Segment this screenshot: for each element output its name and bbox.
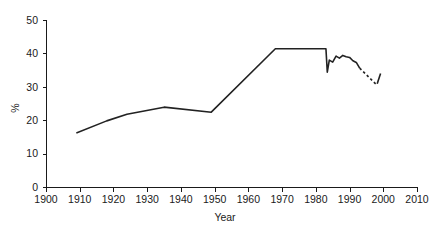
x-tick-label: 2000 xyxy=(372,193,396,205)
data-series-group xyxy=(76,49,380,133)
data-series-final-uptick xyxy=(377,73,380,83)
x-axis-ticks xyxy=(47,188,418,192)
x-tick-label: 1930 xyxy=(136,193,160,205)
x-axis-title: Year xyxy=(214,211,236,223)
y-axis-ticks xyxy=(43,21,47,188)
x-tick-label: 1970 xyxy=(270,193,294,205)
y-tick-label: 50 xyxy=(26,14,38,26)
x-axis-tick-labels: 1900191019201930194019501960197019801990… xyxy=(34,193,429,205)
data-series-projection xyxy=(360,68,377,85)
y-tick-label: 40 xyxy=(26,47,38,59)
x-tick-label: 1900 xyxy=(34,193,58,205)
y-axis-tick-labels: 01020304050 xyxy=(26,14,38,193)
x-tick-label: 1950 xyxy=(203,193,227,205)
data-series-main xyxy=(76,49,359,133)
y-tick-label: 30 xyxy=(26,81,38,93)
x-tick-label: 2010 xyxy=(405,193,429,205)
x-tick-label: 1960 xyxy=(237,193,261,205)
y-tick-label: 10 xyxy=(26,147,38,159)
y-axis-title: % xyxy=(9,103,21,112)
y-tick-label: 20 xyxy=(26,114,38,126)
line-chart: 01020304050 1900191019201930194019501960… xyxy=(0,0,440,232)
x-tick-label: 1990 xyxy=(338,193,362,205)
y-tick-label: 0 xyxy=(32,181,38,193)
x-tick-label: 1980 xyxy=(304,193,328,205)
x-tick-label: 1920 xyxy=(102,193,126,205)
chart-container: 01020304050 1900191019201930194019501960… xyxy=(0,0,440,232)
axis-lines xyxy=(47,21,418,188)
x-tick-label: 1910 xyxy=(68,193,92,205)
x-tick-label: 1940 xyxy=(169,193,193,205)
